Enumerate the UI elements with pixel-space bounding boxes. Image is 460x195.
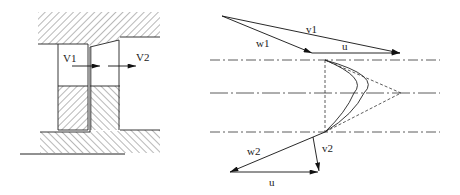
label-u-outlet: u — [269, 176, 275, 188]
label-u-inlet: u — [342, 40, 348, 52]
bottom-disk — [20, 130, 160, 154]
label-v2-vector: v2 — [322, 142, 333, 154]
velocity-triangles: v1 w1 u w2 v2 u — [210, 16, 440, 188]
stage-cross-section: V1 V2 — [20, 12, 160, 154]
rotor-blade — [90, 40, 120, 132]
label-w2-vector: w2 — [247, 145, 260, 157]
label-v2: V2 — [136, 51, 149, 63]
w2-vector — [230, 132, 325, 172]
cascade-reference-lines — [210, 60, 440, 132]
label-w1-vector: w1 — [256, 37, 269, 49]
label-v1-vector: v1 — [306, 23, 317, 35]
label-v1: V1 — [63, 52, 76, 64]
top-casing — [38, 12, 160, 46]
blade-profile — [325, 60, 368, 132]
v2-vector — [313, 137, 319, 171]
figure-canvas: V1 V2 v1 w1 u w2 v2 u — [0, 0, 460, 195]
